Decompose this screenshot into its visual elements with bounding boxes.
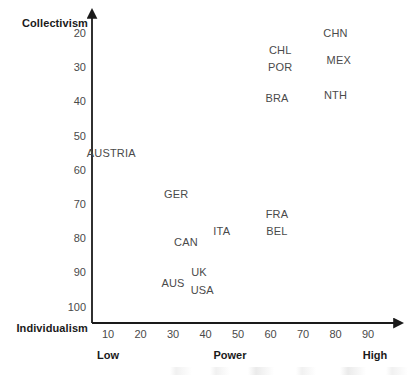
y-tick-label: 100 <box>68 301 86 313</box>
y-axis-bottom-label: Individualism <box>16 322 88 334</box>
x-tick-label: 10 <box>102 328 114 340</box>
clipped-caption-fragment <box>170 367 410 375</box>
data-point-usa: USA <box>191 284 214 296</box>
y-tick-label: 50 <box>74 130 86 142</box>
x-tick-label: 50 <box>232 328 244 340</box>
data-point-bra: BRA <box>265 92 288 104</box>
data-point-nth: NTH <box>324 89 347 101</box>
scatter-plot-chart: Collectivism Individualism Low Power Hig… <box>0 0 412 376</box>
data-point-can: CAN <box>174 236 198 248</box>
x-tick-label: 90 <box>362 328 374 340</box>
x-tick-label: 20 <box>134 328 146 340</box>
data-point-ger: GER <box>164 188 188 200</box>
y-tick-label: 70 <box>74 198 86 210</box>
x-tick-label: 80 <box>329 328 341 340</box>
data-point-uk: UK <box>191 266 207 278</box>
data-point-aus: AUS <box>161 277 184 289</box>
x-tick-label: 70 <box>297 328 309 340</box>
y-tick-label: 80 <box>74 232 86 244</box>
y-tick-label: 60 <box>74 164 86 176</box>
x-tick-label: 60 <box>264 328 276 340</box>
data-point-chn: CHN <box>323 27 347 39</box>
x-axis-title: Power <box>213 349 246 361</box>
x-tick-label: 40 <box>199 328 211 340</box>
y-tick-label: 90 <box>74 266 86 278</box>
data-point-chl: CHL <box>269 44 292 56</box>
x-tick-label: 30 <box>167 328 179 340</box>
y-tick-label: 30 <box>74 61 86 73</box>
data-point-ita: ITA <box>213 225 230 237</box>
data-point-fra: FRA <box>266 208 289 220</box>
x-axis-high-label: High <box>363 349 387 361</box>
x-axis-low-label: Low <box>97 349 119 361</box>
data-point-bel: BEL <box>266 225 287 237</box>
data-point-austria: AUSTRIA <box>87 147 136 159</box>
data-point-mex: MEX <box>327 54 351 66</box>
y-tick-label: 40 <box>74 95 86 107</box>
y-tick-label: 20 <box>74 27 86 39</box>
data-point-por: POR <box>268 61 292 73</box>
